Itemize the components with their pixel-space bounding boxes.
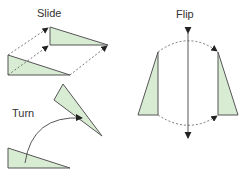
flip-group [138,33,238,138]
slide-arrow-1 [8,28,48,55]
flip-left-triangle [138,52,158,115]
diagram-canvas [0,0,245,178]
slide-label: Slide [37,7,61,19]
slide-original-triangle [8,55,70,75]
flip-right-triangle [218,52,238,115]
slide-group [8,27,108,75]
turn-label: Turn [12,107,34,119]
transformations-diagram: Slide Turn Flip [0,0,245,178]
turn-group [8,84,102,168]
flip-top-arc [158,41,217,52]
turn-image-triangle [54,84,102,136]
flip-bottom-arc [158,115,217,125]
flip-label: Flip [176,8,194,20]
slide-image-triangle [50,27,108,45]
slide-arrow-3 [70,46,107,75]
turn-original-triangle [8,148,70,168]
